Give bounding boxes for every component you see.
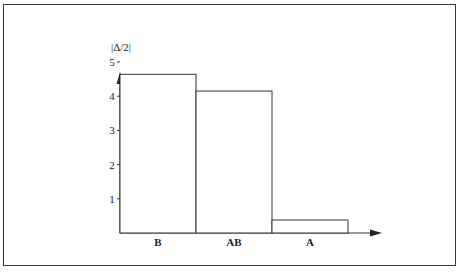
bar-b — [120, 74, 196, 233]
bar-a — [272, 220, 348, 233]
x-category-label: A — [306, 236, 314, 248]
x-category-label: B — [154, 236, 162, 248]
x-axis-arrow-icon — [370, 230, 382, 237]
y-tick-label: 2 — [109, 159, 115, 171]
y-tick-label: 3 — [109, 124, 115, 136]
bar-ab — [196, 91, 272, 233]
x-category-label: AB — [226, 236, 242, 248]
y-tick-label: 4 — [109, 90, 115, 102]
y-axis-label: |Δ/2| — [111, 41, 131, 53]
y-tick-label: 1 — [109, 193, 115, 205]
y-tick-label: 5 — [109, 56, 115, 68]
bar-chart: |Δ/2| 12345 BABA — [0, 0, 460, 272]
